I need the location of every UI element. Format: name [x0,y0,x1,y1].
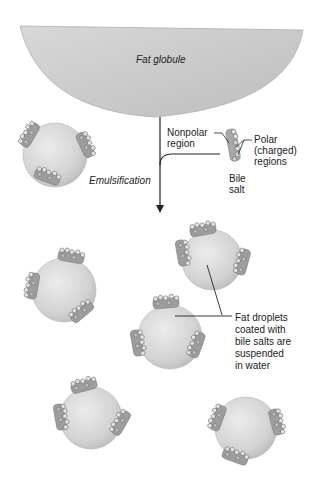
fat-droplet-5 [53,375,132,449]
fat-droplet-4 [130,294,206,369]
fat-droplet-3 [23,247,96,325]
polar-regions-label: Polar (charged) regions [254,134,297,167]
nonpolar-region-label: Nonpolar region [167,127,208,149]
emulsification-diagram [0,0,314,486]
bile-salt-label: Bile salt [229,173,246,195]
arrow-branch [160,154,220,165]
emulsification-label: Emulsification [89,175,151,186]
bile-salt-molecule-icon [225,128,242,162]
fat-droplets-label: Fat droplets coated with bile salts are … [235,312,291,372]
fat-droplet-2 [175,220,251,290]
arrow-head-icon [156,205,164,213]
fat-droplet-1 [16,119,98,187]
fat-globule [20,26,303,117]
fat-globule-label: Fat globule [136,54,185,65]
fat-droplet-6 [206,397,287,466]
